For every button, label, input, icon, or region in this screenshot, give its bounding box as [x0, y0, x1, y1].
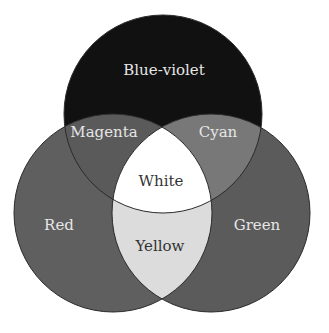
- label-yellow: Yellow: [135, 237, 185, 255]
- label-red: Red: [44, 216, 74, 234]
- label-white: White: [139, 172, 184, 190]
- color-venn-diagram: Blue-violet Magenta Cyan White Red Green…: [0, 0, 329, 333]
- label-green: Green: [234, 216, 281, 234]
- label-magenta: Magenta: [70, 123, 137, 141]
- label-blue-violet: Blue-violet: [123, 61, 204, 79]
- label-cyan: Cyan: [199, 123, 238, 141]
